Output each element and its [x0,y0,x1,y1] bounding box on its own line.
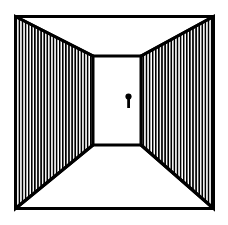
perspective-room-illustration: Perspective corridor with keyhole door [0,0,228,225]
illustration-canvas: Perspective corridor with keyhole door [0,0,228,225]
keyhole-stem [127,99,130,109]
back-wall-door [93,56,141,145]
